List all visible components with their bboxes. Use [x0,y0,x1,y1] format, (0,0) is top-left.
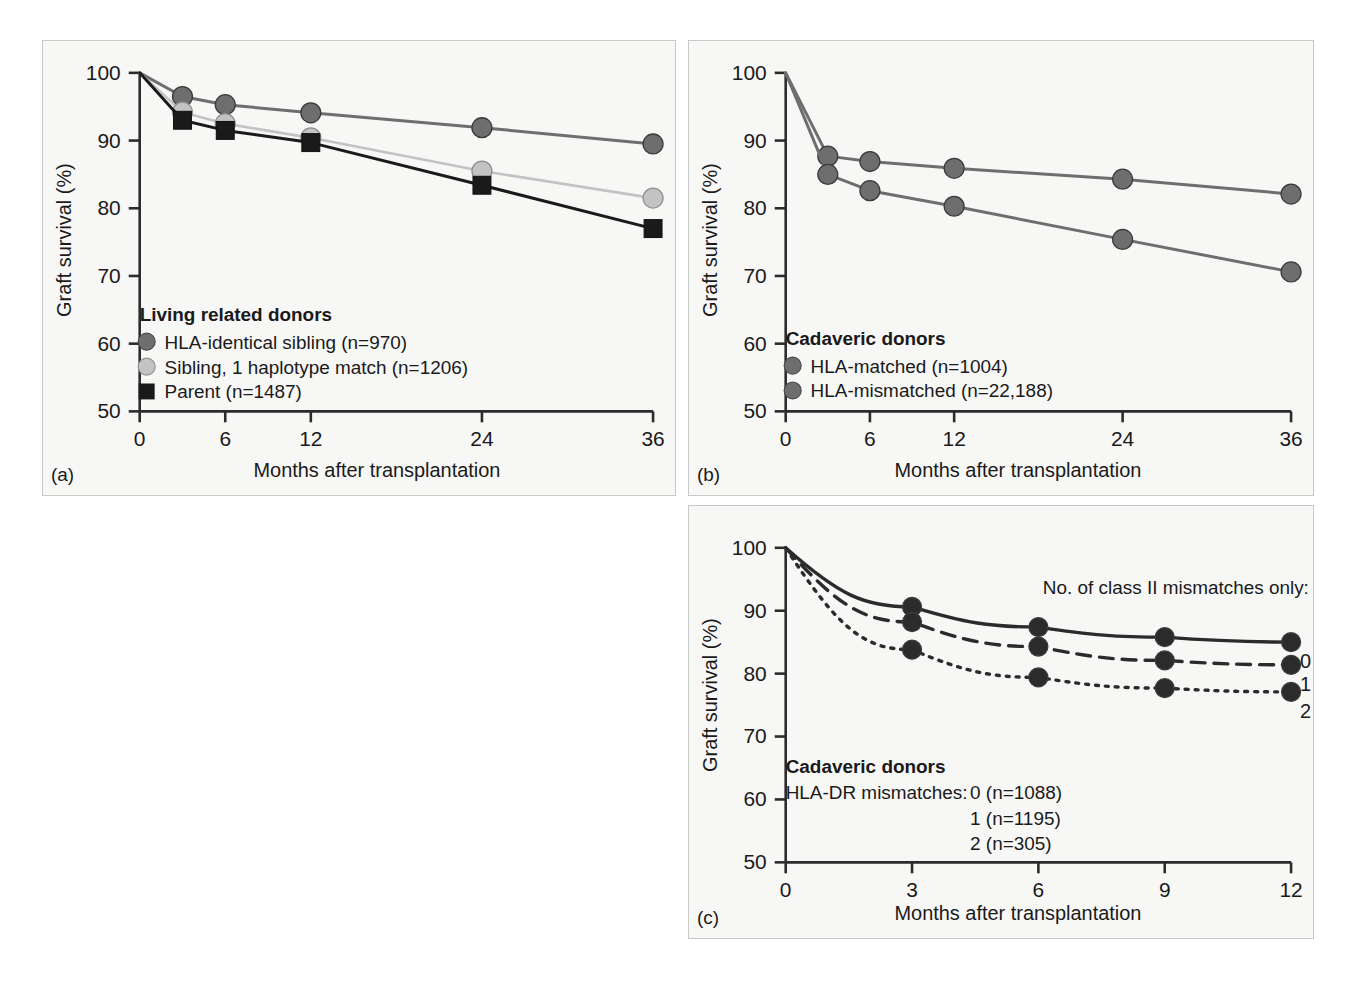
panel-b-y-tick-80: 80 [743,196,766,219]
panel-c-marker-0-2 [1029,618,1048,637]
panel-b-y-tick-90: 90 [743,129,766,152]
panel-b-letter: (b) [697,464,720,485]
panel-a-marker-1-5 [643,188,663,208]
panel-b-marker-0-4 [1113,169,1133,189]
panel-b-legend-label-1: HLA-mismatched (n=22,188) [811,380,1053,401]
panel-b-chart: 5060708090100 06122436 Months after tran… [689,41,1313,495]
panel-a-y-tick-labels: 5060708090100 [86,61,121,422]
panel-b-x-tick-24: 24 [1111,427,1135,450]
panel-c-marker-2-2 [1029,668,1048,687]
panel-b-y-tick-50: 50 [743,399,766,422]
panel-a-y-tick-50: 50 [97,399,120,422]
panel-c-x-tick-9: 9 [1159,878,1171,901]
panel-a-marker-2-1 [174,111,192,129]
panel-a-y-tick-70: 70 [97,264,120,287]
panel-b-y-tick-100: 100 [732,61,767,84]
panel-c-marker-1-1 [903,613,922,632]
panel-c-x-tick-6: 6 [1033,878,1045,901]
panel-b-legend: Cadaveric donors HLA-matched (n=1004) HL… [784,328,1053,402]
panel-b-y-tick-labels: 5060708090100 [732,61,767,422]
panel-c-legend: Cadaveric donors HLA-DR mismatches: 0 (n… [786,756,1062,855]
panel-a-marker-2-4 [473,176,491,194]
panel-a-x-tick-24: 24 [470,427,494,450]
panel-b-x-tick-12: 12 [943,427,966,450]
panel-a-x-tick-6: 6 [219,427,231,450]
panel-c-x-tick-labels: 036912 [780,878,1303,901]
panel-a-marker-0-5 [643,134,663,154]
panel-c-y-tick-80: 80 [743,662,766,685]
panel-a-marker-2-3 [302,134,320,152]
panel-a-marker-0-2 [215,95,235,115]
panel-b-marker-0-2 [860,152,880,172]
panel-a-legend-label-2: Parent (n=1487) [165,381,302,402]
panel-b-legend-label-0: HLA-matched (n=1004) [811,356,1008,377]
panel-b-legend-marker-1 [784,382,801,399]
panel-c-y-tick-labels: 5060708090100 [732,536,767,874]
panel-a-letter: (a) [51,464,74,485]
panel-a-marker-0-3 [301,103,321,123]
panel-c-end-label-1: 1 [1300,673,1311,695]
panel-c-x-tick-0: 0 [780,878,792,901]
panel-b-marker-1-5 [1281,262,1301,282]
panel-a-marker-2-2 [216,121,234,139]
panel-c-legend-label-2: 2 (n=305) [970,833,1052,854]
panel-a-x-axis-title: Months after transplantation [253,459,500,481]
panel-b-marker-1-1 [818,164,838,184]
panel-b-x-tick-labels: 06122436 [780,427,1303,450]
panel-c-x-tick-3: 3 [906,878,918,901]
panel-c-y-tick-60: 60 [743,787,766,810]
panel-b-marker-0-3 [944,158,964,178]
panel-c-marker-1-3 [1155,651,1174,670]
panel-c-legend-title: Cadaveric donors [786,756,946,777]
panel-a-legend-marker-2 [139,383,155,399]
panel-c-x-tick-12: 12 [1279,878,1302,901]
panel-a-marker-2-5 [644,220,662,238]
panel-b-marker-1-4 [1113,229,1133,249]
panel-c-curve-end-labels: 012 [1300,650,1311,722]
panel-a-y-tick-100: 100 [86,61,121,84]
panel-b-series [786,73,1301,282]
panel-b-line-0 [786,73,1291,194]
panel-c-x-axis-title: Months after transplantation [894,902,1141,924]
panel-c-marker-2-3 [1155,679,1174,698]
panel-a-y-axis-title: Graft survival (%) [53,163,75,317]
panel-c-series [786,548,1301,702]
panel-c-marker-2-4 [1282,682,1301,701]
panel-b-x-tick-0: 0 [780,427,792,450]
panel-c-y-tick-100: 100 [732,536,767,559]
panel-a-x-tick-0: 0 [134,427,146,450]
panel-a-legend: Living related donors HLA-identical sibl… [138,304,468,403]
panel-b-legend-marker-0 [784,357,801,374]
panel-a-legend-label-1: Sibling, 1 haplotype match (n=1206) [165,357,468,378]
panel-a-legend-title: Living related donors [140,304,332,325]
panel-a-y-tick-80: 80 [97,196,120,219]
panel-c-marker-1-2 [1029,637,1048,656]
panel-b: 5060708090100 06122436 Months after tran… [688,40,1314,496]
panel-b-x-tick-36: 36 [1279,427,1302,450]
panel-c-y-tick-90: 90 [743,599,766,622]
panel-c-letter: (c) [697,907,719,928]
panel-b-x-tick-6: 6 [864,427,876,450]
panel-a-legend-marker-1 [138,358,155,375]
panel-c-chart: 5060708090100 036912 012 No. of class II… [689,506,1313,938]
panel-c-legend-label-0: 0 (n=1088) [970,782,1062,803]
panel-c-marker-1-4 [1282,655,1301,674]
panel-a-series [140,73,663,238]
figure-root: 5060708090100 06122436 Months after tran… [0,0,1351,992]
panel-b-y-tick-70: 70 [743,264,766,287]
panel-c-y-axis-title: Graft survival (%) [699,618,721,772]
panel-a-y-tick-90: 90 [97,129,120,152]
panel-c-y-tick-50: 50 [743,850,766,873]
panel-a-chart: 5060708090100 06122436 Months after tran… [43,41,675,495]
panel-a-line-2 [140,73,653,229]
panel-b-marker-1-2 [860,181,880,201]
panel-b-legend-title: Cadaveric donors [786,328,946,349]
panel-b-y-tick-60: 60 [743,332,766,355]
panel-b-x-axis-title: Months after transplantation [894,459,1141,481]
panel-c-end-label-2: 2 [1300,700,1311,722]
panel-c-marker-0-3 [1155,628,1174,647]
panel-a-x-tick-36: 36 [641,427,664,450]
panel-a-marker-0-4 [472,118,492,138]
panel-b-marker-0-5 [1281,184,1301,204]
panel-c-marker-2-1 [903,640,922,659]
